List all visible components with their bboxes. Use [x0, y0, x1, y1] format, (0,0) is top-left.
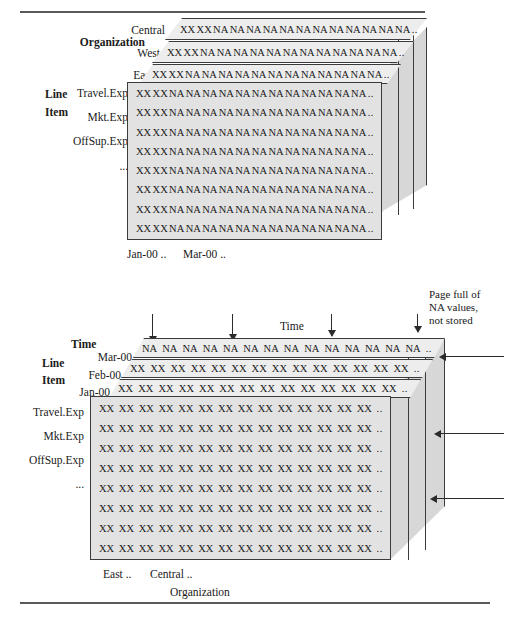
cell: NA	[246, 24, 261, 35]
cell: NA	[268, 107, 283, 118]
cell: NA	[318, 165, 333, 176]
cell: XX	[337, 503, 352, 514]
cell: XX	[99, 463, 114, 474]
bottom-time-slab-mar-cells: NA NA NA NA NA NA NA NA NA NA NA NA NA N…	[142, 339, 432, 357]
cell: XX	[357, 523, 372, 534]
cell: XX	[136, 88, 151, 99]
cell: XX	[317, 443, 332, 454]
table-row: XX XX XX XX XX XX XX XX XX XX XX XX XX X…	[99, 543, 383, 554]
cell: NA	[268, 165, 283, 176]
cell: XX	[317, 483, 332, 494]
cell: NA	[186, 88, 201, 99]
table-row: XX XX XX XX XX XX XX XX XX XX XX XX XX X…	[99, 463, 383, 474]
cell: XX	[357, 403, 372, 414]
cell: NA	[335, 223, 350, 234]
cell: NA	[218, 69, 233, 80]
cell: XX	[218, 463, 233, 474]
cell: XX	[178, 423, 193, 434]
cell: XX	[393, 363, 408, 374]
cell: NA	[318, 146, 333, 157]
cell: ..	[402, 383, 408, 394]
cell: NA	[169, 88, 184, 99]
cell: XX	[99, 503, 114, 514]
cell: XX	[119, 423, 134, 434]
bottom-org-tick-east: East ..	[103, 568, 131, 580]
cell: XX	[119, 523, 134, 534]
cell: XX	[277, 463, 292, 474]
cell: XX	[238, 523, 253, 534]
top-org-slab-central-cells: XX XX NA NA NA NA NA NA NA NA NA NA NA N…	[180, 19, 418, 39]
cell: NA	[186, 146, 201, 157]
down-arrow-2	[232, 314, 233, 340]
cell: NA	[235, 127, 250, 138]
cell: XX	[357, 503, 372, 514]
cell: NA	[235, 204, 250, 215]
cell: XX	[258, 483, 273, 494]
bottom-time-slab-feb-cells: XX XX XX XX XX XX XX XX XX XX XX XX XX X…	[130, 360, 420, 377]
bottom-time-slab-jan-cells: XX XX XX XX XX XX XX XX XX XX XX XX XX X…	[118, 380, 408, 397]
cell: NA	[351, 184, 366, 195]
cell: XX	[198, 403, 213, 414]
top-cube-front-cells: XX XX NA NA NA NA NA NA NA NA NA NA NA N…	[136, 84, 374, 238]
cell: ..	[399, 47, 405, 58]
cell: ..	[377, 443, 383, 454]
cell: NA	[335, 127, 350, 138]
cell: NA	[263, 24, 278, 35]
cell: NA	[235, 146, 250, 157]
cell: NA	[202, 146, 217, 157]
cell: XX	[197, 24, 212, 35]
cell: NA	[217, 47, 232, 58]
cell: XX	[312, 363, 327, 374]
table-row: XX XX XX XX XX XX XX XX XX XX XX XX XX X…	[99, 483, 383, 494]
cell: XX	[158, 543, 173, 554]
cell: XX	[158, 483, 173, 494]
cell: NA	[219, 127, 234, 138]
cell: NA	[252, 184, 267, 195]
down-arrow-1	[152, 314, 153, 342]
cell: XX	[317, 543, 332, 554]
cell: XX	[99, 543, 114, 554]
cell: XX	[337, 523, 352, 534]
cell: XX	[198, 503, 213, 514]
table-row: XX XX NA NA NA NA NA NA NA NA NA NA NA N…	[152, 69, 390, 80]
cell: XX	[152, 69, 167, 80]
cell: NA	[213, 24, 228, 35]
cell: ..	[377, 503, 383, 514]
cell: XX	[99, 523, 114, 534]
top-org-tick-central: Central	[95, 24, 165, 36]
cell: XX	[337, 483, 352, 494]
cell: XX	[277, 443, 292, 454]
cell: XX	[337, 423, 352, 434]
cell: XX	[153, 204, 168, 215]
cell: XX	[159, 383, 174, 394]
bottom-horizontal-rule	[20, 602, 490, 604]
cell: XX	[258, 443, 273, 454]
cell: XX	[341, 383, 356, 394]
cell: XX	[130, 363, 145, 374]
cell: NA	[279, 24, 294, 35]
cell: XX	[280, 383, 295, 394]
cell: XX	[178, 403, 193, 414]
cell: XX	[337, 403, 352, 414]
cell: NA	[351, 127, 366, 138]
cell: XX	[337, 463, 352, 474]
cell: NA	[235, 223, 250, 234]
cell: NA	[169, 165, 184, 176]
cell: XX	[297, 543, 312, 554]
table-row: XX XX NA NA NA NA NA NA NA NA NA NA NA N…	[136, 88, 374, 99]
cell: NA	[219, 223, 234, 234]
cell: XX	[277, 483, 292, 494]
top-org-slab-east-cells: XX XX NA NA NA NA NA NA NA NA NA NA NA N…	[152, 65, 390, 83]
cell: XX	[333, 363, 348, 374]
cell: XX	[321, 383, 336, 394]
cell: XX	[158, 463, 173, 474]
cell: XX	[198, 523, 213, 534]
cell: XX	[297, 503, 312, 514]
cell: XX	[139, 523, 154, 534]
cell: NA	[235, 184, 250, 195]
table-row: XX XX XX XX XX XX XX XX XX XX XX XX XX X…	[99, 503, 383, 514]
cell: NA	[243, 343, 258, 354]
cell: NA	[304, 343, 319, 354]
cell: XX	[277, 403, 292, 414]
cell: ..	[412, 24, 418, 35]
